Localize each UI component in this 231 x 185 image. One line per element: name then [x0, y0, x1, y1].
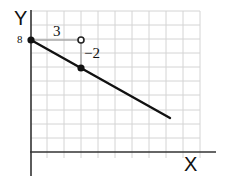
open-point [78, 37, 84, 43]
rise-label: −2 [84, 46, 100, 61]
y-intercept-point [27, 36, 34, 43]
second-point [77, 64, 84, 71]
y-axis-label: Y [14, 8, 27, 28]
x-axis-label: X [184, 154, 197, 174]
run-label: 3 [53, 24, 61, 39]
y-intercept-label: 8 [17, 34, 23, 45]
